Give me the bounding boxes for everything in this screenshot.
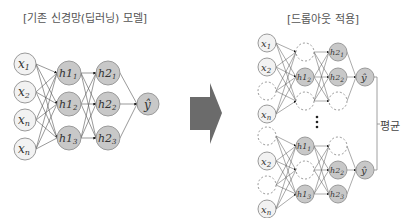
node-xn: xn xyxy=(258,105,276,123)
node-h2-3: h23 xyxy=(96,126,120,150)
left-edges-h2-output xyxy=(120,73,137,138)
node-h1-1: h11 xyxy=(296,137,314,155)
left-output-node: ŷ xyxy=(137,93,159,115)
node-h1-2: h12 xyxy=(57,92,81,116)
left-edges-h1-h2 xyxy=(81,73,96,138)
node-h2-2: h22 xyxy=(329,68,347,86)
node-dropped xyxy=(296,92,314,110)
left-input-nodes: x1 x2 xn xn xyxy=(14,53,36,160)
node-x1: x1 xyxy=(14,53,36,75)
ellipsis-dots xyxy=(316,116,319,129)
svg-text:ŷ: ŷ xyxy=(143,98,151,112)
svg-text:ŷ: ŷ xyxy=(360,165,367,176)
right-bottom-subnet-nodes: x2 xn h11 h13 h22 h23 ŷ xyxy=(258,127,374,218)
transform-arrow-icon xyxy=(190,83,222,144)
node-h2-2: h22 xyxy=(329,161,347,179)
node-x2: x2 xyxy=(258,152,276,170)
node-h2-3: h23 xyxy=(329,185,347,203)
node-output: ŷ xyxy=(356,161,374,179)
node-h1-1: h11 xyxy=(57,61,81,85)
node-x1: x1 xyxy=(258,34,276,52)
node-xn: xn xyxy=(14,138,36,160)
left-edges-input-h1 xyxy=(36,64,57,149)
node-h1-3: h13 xyxy=(296,185,314,203)
right-top-subnet-nodes: x1 x2 xn h12 h21 h22 ŷ xyxy=(258,34,374,123)
average-label: 평균 xyxy=(380,117,400,133)
node-h1-2: h12 xyxy=(296,68,314,86)
node-x2: x2 xyxy=(14,81,36,103)
node-xn: xn xyxy=(14,109,36,131)
node-dropped xyxy=(296,161,314,179)
node-dropped xyxy=(329,137,347,155)
left-hidden1-nodes: h11 h12 h13 xyxy=(57,61,81,150)
left-hidden2-nodes: h21 h22 h23 xyxy=(96,61,120,150)
node-h1-3: h13 xyxy=(57,126,81,150)
diagram-canvas: x1 x2 xn xn h11 h12 h13 h21 h22 h23 ŷ xyxy=(0,0,412,218)
node-h2-1: h21 xyxy=(96,61,120,85)
node-x2: x2 xyxy=(258,58,276,76)
node-dropped xyxy=(258,82,276,100)
node-h2-2: h22 xyxy=(96,92,120,116)
node-output: ŷ xyxy=(356,68,374,86)
node-h2-1: h21 xyxy=(329,43,347,61)
node-dropped xyxy=(296,43,314,61)
node-dropped xyxy=(329,92,347,110)
node-dropped xyxy=(258,176,276,194)
left-network xyxy=(36,64,137,149)
node-xn: xn xyxy=(258,200,276,218)
node-dropped xyxy=(258,127,276,145)
svg-text:ŷ: ŷ xyxy=(360,72,367,83)
